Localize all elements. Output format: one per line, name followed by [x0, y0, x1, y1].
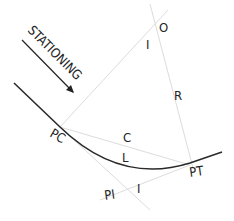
o-label: O: [159, 20, 168, 35]
c-label: C: [123, 130, 131, 145]
curve-diagram: STATIONING O I R PC C L PT PI I: [0, 0, 234, 221]
curve-path: [14, 83, 222, 169]
radius-line-pt: [150, 4, 193, 168]
i-top-label: I: [146, 37, 149, 52]
pi-label: PI: [103, 187, 115, 203]
pt-label: PT: [188, 163, 205, 180]
l-label: L: [122, 150, 129, 165]
diagram-svg: STATIONING O I R PC C L PT PI I: [0, 0, 234, 221]
i-bottom-label: I: [137, 181, 140, 196]
r-label: R: [174, 88, 182, 103]
